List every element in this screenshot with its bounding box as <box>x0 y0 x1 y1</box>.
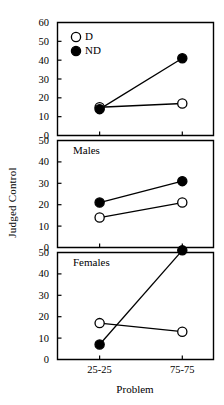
data-point-d <box>178 327 187 336</box>
series-line-d <box>100 203 183 218</box>
data-point-nd <box>178 177 187 186</box>
y-tick-label: 20 <box>31 199 49 210</box>
y-tick-label: 10 <box>31 333 49 344</box>
panel-frame <box>58 141 214 248</box>
data-point-nd <box>95 198 104 207</box>
y-tick-label: 50 <box>31 36 49 47</box>
data-point-d <box>95 319 104 328</box>
figure-judged-control: Judged Control Problem 01020304050600102… <box>0 0 224 405</box>
x-axis-label: Problem <box>57 383 213 395</box>
y-tick-label: 10 <box>31 221 49 232</box>
data-point-nd <box>178 246 187 255</box>
y-tick-label: 50 <box>31 135 49 146</box>
series-line-d <box>100 103 183 107</box>
data-point-d <box>178 198 187 207</box>
panel-males <box>58 141 214 248</box>
y-tick-label: 30 <box>31 74 49 85</box>
panel-frame <box>58 253 214 360</box>
y-tick-label: 20 <box>31 92 49 103</box>
data-point-d <box>95 213 104 222</box>
y-tick-label: 0 <box>31 354 49 365</box>
series-line-nd <box>100 181 183 202</box>
x-tick-label: 25-25 <box>77 364 123 375</box>
y-tick-label: 10 <box>31 111 49 122</box>
series-line-nd <box>100 58 183 109</box>
legend-label-nd: ND <box>85 44 101 56</box>
y-tick-label: 30 <box>31 178 49 189</box>
y-tick-label: 30 <box>31 290 49 301</box>
legend-marker-nd <box>71 46 80 55</box>
panel-overall <box>58 23 214 136</box>
panel-title-females: Females <box>73 256 110 268</box>
y-tick-label: 40 <box>31 268 49 279</box>
data-point-nd <box>178 54 187 63</box>
legend-label-d: D <box>85 30 93 42</box>
y-tick-label: 50 <box>31 247 49 258</box>
y-tick-label: 40 <box>31 156 49 167</box>
data-point-d <box>178 99 187 108</box>
y-tick-label: 20 <box>31 311 49 322</box>
x-tick-label: 75-75 <box>159 364 205 375</box>
legend-marker-d <box>71 32 80 41</box>
data-point-nd <box>95 105 104 114</box>
panel-title-males: Males <box>73 144 100 156</box>
panel-frame <box>58 23 214 136</box>
legend <box>71 32 80 55</box>
data-point-nd <box>95 340 104 349</box>
y-tick-label: 40 <box>31 55 49 66</box>
y-tick-label: 60 <box>31 17 49 28</box>
